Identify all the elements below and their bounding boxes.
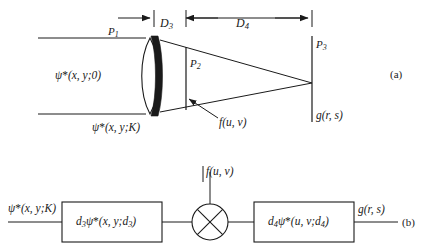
filter-input-label: f(u, v) — [206, 166, 233, 178]
dimension-label-d3: D3 — [160, 17, 173, 31]
plane-label-p1: P1 — [108, 26, 119, 39]
panel-b-block-diagram — [8, 166, 398, 242]
figure-container: D3 D4 P1 P2 P3 ψ*(x, y;0) ψ*(x, y;K) f(u… — [0, 0, 430, 250]
block-output-label: g(r, s) — [358, 204, 385, 216]
filter-function-label: f(u, v) — [219, 117, 246, 129]
block-d4-label: d4ψ*(u, v;d4) — [268, 216, 329, 230]
dimension-d4 — [186, 10, 312, 27]
panel-tag-a: (a) — [390, 68, 402, 80]
dimension-d3 — [118, 10, 186, 27]
panel-a-optical-layout — [38, 10, 312, 122]
input-field-label: ψ*(x, y;0) — [55, 70, 101, 82]
plane-label-p3: P3 — [316, 39, 327, 52]
output-function-label: g(r, s) — [316, 110, 343, 122]
lens-field-label: ψ*(x, y;K) — [92, 122, 140, 134]
converging-ray-top — [160, 40, 312, 83]
converging-ray-bottom — [160, 83, 312, 112]
plane-label-p2: P2 — [190, 58, 201, 71]
dimension-label-d4: D4 — [236, 17, 249, 31]
panel-tag-b: (b) — [402, 216, 415, 228]
lens-mask-element — [151, 36, 163, 116]
block-d3-label: d3ψ*(x, y;d3) — [76, 216, 136, 230]
block-input-label: ψ*(x, y;K) — [8, 203, 56, 215]
